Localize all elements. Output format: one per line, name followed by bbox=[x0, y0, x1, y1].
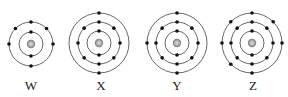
electron-dot bbox=[175, 29, 179, 33]
atom-x bbox=[69, 11, 129, 75]
electron-dot bbox=[235, 56, 239, 60]
electron-dot bbox=[97, 53, 101, 57]
electron-dot bbox=[97, 62, 101, 66]
atom-label-w: W bbox=[21, 78, 41, 94]
electron-dot bbox=[97, 71, 101, 75]
electron-dot bbox=[7, 42, 11, 46]
atom-label-z: Z bbox=[243, 78, 263, 94]
electron-dot bbox=[175, 11, 179, 15]
electron-dot bbox=[175, 20, 179, 24]
electron-dot bbox=[265, 26, 269, 30]
electron-dot bbox=[97, 11, 101, 15]
electron-dot bbox=[220, 41, 224, 45]
electron-dot bbox=[229, 62, 233, 66]
electron-dot bbox=[190, 26, 194, 30]
electron-dot bbox=[265, 56, 269, 60]
nucleus bbox=[173, 39, 181, 47]
electron-dot bbox=[271, 20, 275, 24]
electron-dot bbox=[250, 62, 254, 66]
electron-dot bbox=[29, 30, 33, 34]
electron-dot bbox=[97, 29, 101, 33]
electron-dot bbox=[82, 56, 86, 60]
electron-dot bbox=[82, 26, 86, 30]
atom-z bbox=[220, 11, 284, 75]
electron-dot bbox=[145, 41, 149, 45]
atom-label-y: Y bbox=[167, 78, 187, 94]
electron-dot bbox=[175, 71, 179, 75]
electron-dot bbox=[118, 41, 122, 45]
electron-dot bbox=[235, 26, 239, 30]
electron-dot bbox=[250, 71, 254, 75]
electron-dot bbox=[29, 64, 33, 68]
electron-dot bbox=[175, 53, 179, 57]
nucleus bbox=[248, 39, 256, 47]
nucleus bbox=[95, 39, 103, 47]
electron-dot bbox=[76, 41, 80, 45]
electron-dot bbox=[250, 11, 254, 15]
nucleus bbox=[27, 40, 35, 48]
electron-dot bbox=[112, 26, 116, 30]
electron-dot bbox=[14, 27, 18, 31]
electron-dot bbox=[160, 56, 164, 60]
atom-w bbox=[7, 20, 55, 68]
electron-dot bbox=[196, 41, 200, 45]
electron-dot bbox=[280, 41, 284, 45]
electron-dot bbox=[97, 20, 101, 24]
electron-dot bbox=[250, 53, 254, 57]
electron-dot bbox=[229, 20, 233, 24]
atom-label-x: X bbox=[91, 78, 111, 94]
electron-dot bbox=[271, 41, 275, 45]
electron-dot bbox=[51, 42, 55, 46]
electron-dot bbox=[45, 27, 49, 31]
electron-dot bbox=[250, 29, 254, 33]
electron-dot bbox=[160, 26, 164, 30]
electron-dot bbox=[29, 20, 33, 24]
electron-dot bbox=[190, 56, 194, 60]
electron-dot bbox=[175, 62, 179, 66]
electron-dot bbox=[229, 41, 233, 45]
electron-dot bbox=[154, 41, 158, 45]
electron-dot bbox=[112, 56, 116, 60]
electron-dot bbox=[29, 54, 33, 58]
atom-y bbox=[145, 11, 207, 75]
electron-dot bbox=[250, 20, 254, 24]
